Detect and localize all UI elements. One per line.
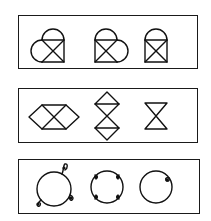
puzzle-row-1	[18, 15, 198, 69]
figure-vertical-double-diamond	[91, 89, 123, 145]
puzzle-row-2	[18, 88, 198, 143]
figure-square-x-top-left-arcs	[27, 18, 71, 66]
figure-horizontal-bowtie-hexagon	[27, 97, 83, 137]
figure-square-x-top-arc	[141, 18, 171, 66]
figure-circle-four-curls	[87, 166, 127, 208]
figure-circle-three-loops	[33, 162, 77, 212]
figure-circle-one-curl	[137, 166, 177, 208]
figure-square-x-top-right-arcs	[92, 18, 136, 66]
puzzle-row-3	[18, 159, 200, 214]
figure-hourglass	[141, 97, 171, 137]
